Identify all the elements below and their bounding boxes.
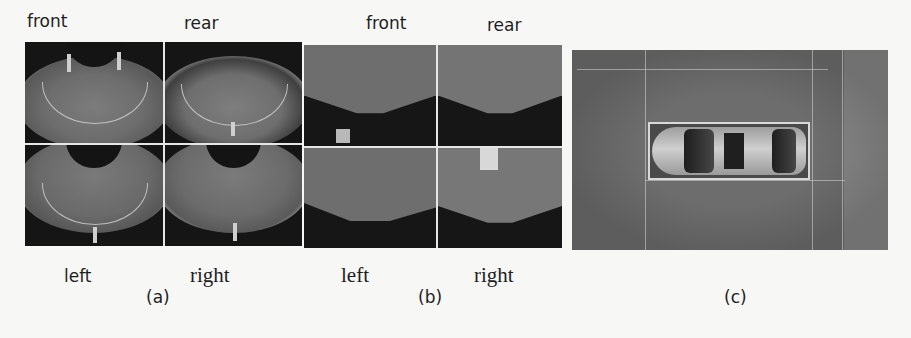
- fisheye-rear-image: [165, 42, 302, 143]
- panel-a-fisheye-images: [25, 42, 302, 246]
- parking-line-right: [812, 50, 813, 250]
- undistorted-rear-image: [438, 45, 562, 146]
- fisheye-right-image: [165, 145, 302, 246]
- parking-line-bottom: [645, 180, 845, 181]
- caption-a: (a): [146, 289, 170, 306]
- label-a-right: right: [190, 265, 230, 286]
- panel-a-horizontal-divider: [25, 143, 302, 145]
- label-a-left: left: [64, 268, 92, 285]
- label-b-front: front: [366, 15, 406, 32]
- label-b-rear: rear: [487, 17, 521, 34]
- caption-b: (b): [418, 289, 442, 306]
- panel-b-undistorted-images: [304, 45, 562, 248]
- panel-c-birds-eye-view: [572, 50, 888, 250]
- parking-line-top: [577, 69, 828, 70]
- fisheye-left-image: [25, 145, 163, 246]
- label-a-rear: rear: [184, 15, 218, 32]
- label-b-right: right: [474, 265, 514, 286]
- caption-c: (c): [724, 289, 747, 306]
- label-b-left: left: [341, 265, 369, 286]
- label-a-front: front: [27, 13, 67, 30]
- undistorted-left-image: [304, 148, 436, 248]
- fisheye-front-image: [25, 42, 163, 143]
- car-top-view: [648, 122, 810, 180]
- parking-line-far-right: [842, 50, 843, 250]
- undistorted-right-image: [438, 148, 562, 248]
- parking-line-left: [645, 50, 646, 250]
- undistorted-front-image: [304, 45, 436, 146]
